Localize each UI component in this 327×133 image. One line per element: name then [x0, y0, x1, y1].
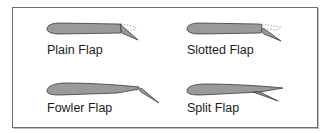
fowler-flap-drawing: [47, 83, 159, 103]
plain-flap-label: Plain Flap: [47, 44, 103, 57]
plain-flap-drawing: [47, 23, 138, 40]
slotted-flap-drawing: [187, 23, 281, 41]
split-flap-drawing: [187, 84, 283, 101]
slotted-flap-label: Slotted Flap: [187, 44, 254, 57]
fowler-flap-label: Fowler Flap: [47, 102, 112, 115]
split-flap-label: Split Flap: [187, 102, 239, 115]
